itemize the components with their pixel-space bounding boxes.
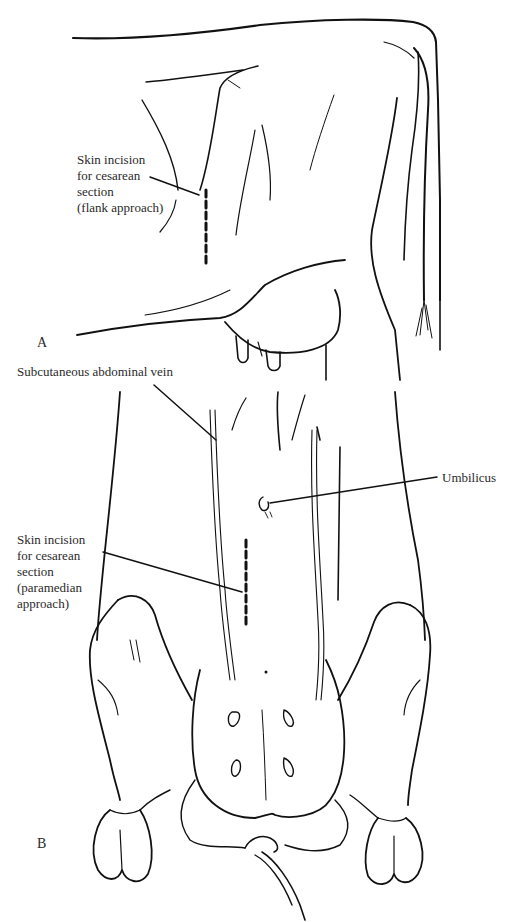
label-line: (paramedian [17, 580, 85, 596]
label-line: Subcutaneous abdominal vein [17, 364, 173, 380]
label-line: approach) [17, 596, 85, 612]
label-line: section [17, 564, 85, 580]
panel-letter-b: B [37, 836, 46, 852]
label-line: Skin incision [77, 152, 163, 168]
line-drawing [0, 0, 514, 922]
label-subcutaneous-abdominal-vein: Subcutaneous abdominal vein [17, 364, 173, 380]
label-line: for cesarean [17, 548, 85, 564]
cesarean-incision-figure: Skin incision for cesarean section (flan… [0, 0, 514, 922]
label-line: for cesarean [77, 168, 163, 184]
label-paramedian-incision: Skin incision for cesarean section (para… [17, 532, 85, 612]
label-flank-incision: Skin incision for cesarean section (flan… [77, 152, 163, 216]
panel-letter-a: A [37, 335, 47, 351]
label-umbilicus: Umbilicus [442, 470, 496, 486]
panel-b-cow-ventral [90, 385, 437, 920]
label-line: Umbilicus [442, 470, 496, 486]
label-line: (flank approach) [77, 200, 163, 216]
label-line: section [77, 184, 163, 200]
label-line: Skin incision [17, 532, 85, 548]
